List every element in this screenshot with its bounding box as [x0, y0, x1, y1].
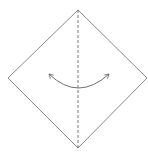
- diagram-canvas: [0, 0, 148, 152]
- origami-diagram: [0, 0, 148, 152]
- paper-diamond: [8, 10, 147, 148]
